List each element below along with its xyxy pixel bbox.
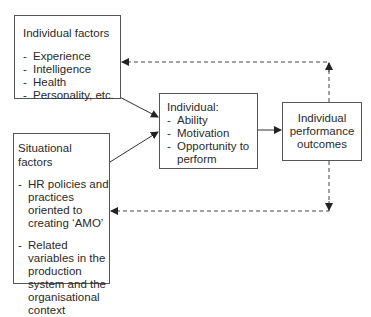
list-item: Intelligence <box>23 63 120 76</box>
list-item: Ability <box>167 114 257 127</box>
individual-box: Individual: Ability Motivation Opportuni… <box>159 93 258 169</box>
individual-list: Ability Motivation Opportunity to perfor… <box>167 114 257 166</box>
arrow-situational-to-individual <box>110 132 158 162</box>
individual-factors-box: Individual factors Experience Intelligen… <box>14 15 121 99</box>
situational-factors-list: HR policies and practices oriented to cr… <box>18 178 109 317</box>
list-item: Related variables in the production syst… <box>18 239 109 317</box>
outcomes-line-2: performance <box>290 125 355 138</box>
situational-factors-title: Situational factors <box>18 141 109 169</box>
list-item: Personality, etc. <box>23 89 120 102</box>
performance-outcomes-box: Individual performance outcomes <box>282 102 362 161</box>
outcomes-line-3: outcomes <box>290 138 355 151</box>
individual-factors-list: Experience Intelligence Health Personali… <box>23 50 120 102</box>
situational-factors-box: Situational factors HR policies and prac… <box>13 133 110 284</box>
outcomes-line-1: Individual <box>290 112 355 125</box>
list-item: HR policies and practices oriented to cr… <box>18 178 109 230</box>
list-item: Opportunity to perform <box>167 140 257 166</box>
individual-factors-title: Individual factors <box>23 26 120 40</box>
outcomes-label: Individual performance outcomes <box>290 112 355 151</box>
individual-title: Individual: <box>167 101 257 114</box>
list-item: Motivation <box>167 127 257 140</box>
list-item: Experience <box>23 50 120 63</box>
list-item: Health <box>23 76 120 89</box>
